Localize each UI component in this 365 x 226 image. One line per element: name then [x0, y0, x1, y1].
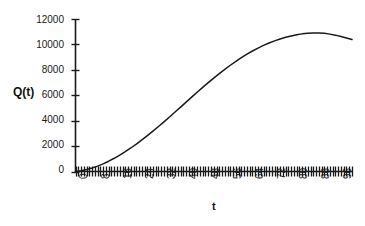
x-tick-label: 0 [78, 173, 89, 179]
y-tick-label: 2000 [12, 139, 64, 150]
x-tick-label: 16 [122, 168, 133, 179]
x-tick-label: 32 [166, 168, 177, 179]
data-series-line [76, 33, 353, 172]
y-tick-label: 4000 [12, 114, 64, 125]
x-tick-label: 88 [320, 168, 331, 179]
x-tick-label: 48 [210, 168, 221, 179]
x-tick-label: 64 [254, 168, 265, 179]
x-tick-label: 56 [232, 168, 243, 179]
x-tick-label: 96 [342, 168, 353, 179]
y-tick-label: 8000 [12, 64, 64, 75]
x-tick-label: 8 [100, 173, 111, 179]
x-tick-label: 24 [144, 168, 155, 179]
x-tick-label: 72 [276, 168, 287, 179]
y-tick-label: 0 [12, 164, 64, 175]
y-tick-label: 10000 [12, 39, 64, 50]
plot-area [0, 0, 365, 226]
x-tick-label: 80 [298, 168, 309, 179]
y-tick-label: 12000 [12, 14, 64, 25]
chart-figure: Q(t) t 12000 10000 8000 6000 4000 2000 0… [0, 0, 365, 226]
x-axis-title: t [212, 200, 216, 212]
y-tick-label: 6000 [12, 89, 64, 100]
x-tick-label: 40 [188, 168, 199, 179]
